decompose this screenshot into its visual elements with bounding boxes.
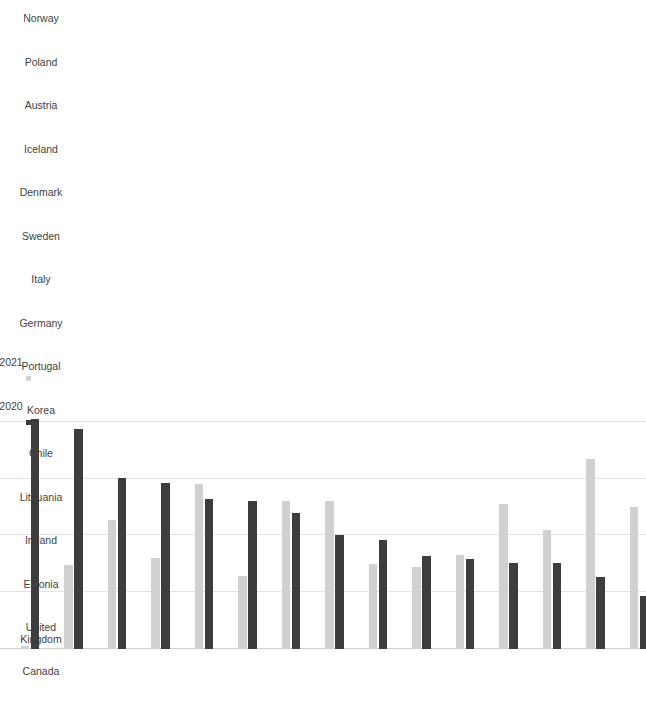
bar-2021-estonia — [108, 520, 117, 649]
category-label-poland: Poland — [19, 57, 63, 85]
bar-2021-sweden — [456, 555, 465, 649]
bar-2021-united-kingdom — [64, 565, 73, 649]
bar-2021-portugal — [325, 501, 334, 649]
bar-2020-italy — [422, 556, 431, 649]
category-label-austria: Austria — [19, 101, 63, 129]
gridline-20 — [0, 421, 646, 422]
bar-2020-sweden — [466, 559, 475, 649]
legend-swatch-2020 — [26, 420, 31, 425]
bar-2021-denmark — [499, 504, 508, 649]
gridline-15 — [0, 478, 646, 479]
bar-2020-lithuania — [205, 499, 214, 649]
bar-2021-poland — [630, 507, 639, 649]
category-label-sweden: Sweden — [19, 231, 63, 259]
bar-2020-iceland — [553, 563, 562, 649]
category-label-canada: Canada — [19, 666, 63, 694]
bar-2020-portugal — [335, 536, 344, 650]
category-label-ireland: Ireland — [19, 536, 63, 564]
category-label-estonia: Estonia — [19, 579, 63, 607]
bar-2020-chile — [248, 501, 257, 649]
bar-2020-germany — [379, 540, 388, 649]
bar-2021-chile — [238, 576, 247, 649]
category-label-iceland: Iceland — [19, 144, 63, 172]
bar-2020-denmark — [509, 563, 518, 649]
bar-2020-ireland — [161, 483, 170, 649]
bar-2020-korea — [292, 513, 301, 649]
bar-2021-ireland — [151, 558, 160, 649]
bar-2020-austria — [596, 578, 605, 650]
bar-2021-italy — [412, 567, 421, 649]
bar-2020-poland — [640, 596, 646, 649]
category-label-denmark: Denmark — [19, 188, 63, 216]
category-label-lithuania: Lithuania — [19, 492, 63, 520]
category-label-united-kingdom: UnitedKingdom — [19, 623, 63, 651]
legend-label-2021: 2021 — [0, 356, 26, 368]
bar-2021-korea — [282, 501, 291, 649]
category-label-norway: Norway — [19, 14, 63, 42]
category-label-germany: Germany — [19, 318, 63, 346]
bar-2020-united-kingdom — [74, 429, 83, 649]
bar-2021-iceland — [543, 530, 552, 649]
bar-2021-austria — [586, 459, 595, 649]
category-label-chile: Chile — [19, 449, 63, 477]
bar-2021-lithuania — [195, 484, 204, 649]
bar-2020-estonia — [118, 478, 127, 649]
legend-label-2020: 2020 — [0, 400, 26, 412]
legend-swatch-2021 — [26, 376, 31, 381]
category-label-italy: Italy — [19, 275, 63, 303]
bar-2021-germany — [369, 564, 378, 649]
